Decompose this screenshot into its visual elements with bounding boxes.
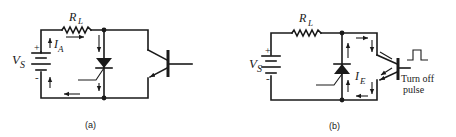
panel-caption: (a)	[85, 120, 96, 130]
thyristor-icon	[78, 58, 112, 80]
minus-sign: -	[266, 72, 270, 84]
minus-sign: -	[35, 71, 39, 83]
node-dot	[102, 28, 107, 33]
current-label-sub: E	[359, 76, 366, 86]
node-dot	[340, 98, 345, 103]
panel-a: R L + - V S I A	[12, 10, 192, 130]
pulse-label-line2: pulse	[403, 84, 425, 95]
pulse-icon	[407, 50, 428, 60]
wires-b	[271, 33, 377, 100]
resistor-label: R	[68, 10, 77, 24]
source-label-sub: S	[20, 59, 25, 70]
plus-sign: +	[265, 45, 271, 56]
resistor-label: R	[298, 11, 307, 25]
pulse-label-line1: Turn off	[401, 73, 435, 84]
plus-sign: +	[34, 42, 40, 53]
circuit-figure: R L + - V S I A	[0, 0, 456, 137]
resistor-label-sub: L	[77, 16, 83, 26]
panel-b: R L + - V S I E	[249, 11, 435, 131]
battery-icon	[262, 56, 280, 73]
resistor-icon	[292, 30, 321, 36]
current-label-sub: A	[57, 44, 64, 54]
node-dot	[102, 96, 107, 101]
node-dot	[340, 31, 345, 36]
source-label-sub: S	[257, 63, 262, 74]
transistor-icon	[148, 50, 192, 77]
thyristor-icon	[316, 64, 350, 85]
resistor-icon	[62, 27, 91, 33]
battery-icon	[32, 52, 50, 70]
resistor-label-sub: L	[307, 18, 313, 28]
panel-caption: (b)	[329, 121, 340, 131]
current-arrow-icon	[381, 68, 392, 75]
